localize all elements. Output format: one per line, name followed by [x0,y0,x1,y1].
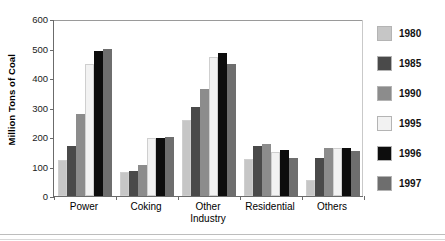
bar-1985 [253,146,262,196]
bar-1996 [156,138,165,196]
legend-item-1995[interactable]: 1995 [377,108,443,138]
bar-1980 [306,180,315,196]
bar-1997 [351,151,360,196]
legend-swatch-icon [377,26,392,41]
bar-1980 [58,160,67,196]
legend-swatch-icon [377,56,392,71]
x-axis-label: Coking [115,201,177,213]
x-axis-label: Power [53,201,115,213]
x-axis-label: OtherIndustry [177,201,239,224]
bar-1996 [94,51,103,196]
legend-label: 1997 [399,178,421,189]
legend-swatch-icon [377,176,392,191]
x-axis-label: Others [301,201,363,213]
bar-1990 [76,114,85,196]
legend-label: 1985 [399,58,421,69]
bar-1996 [342,148,351,196]
bar-1995 [147,138,156,196]
bar-1985 [67,146,76,196]
bar-1985 [315,158,324,196]
bar-1985 [129,171,138,196]
x-axis-label-line: Industry [177,213,239,225]
legend-swatch-icon [377,116,392,131]
x-axis-tick-mark [240,196,241,200]
x-axis-label: Residential [239,201,301,213]
legend-label: 1995 [399,118,421,129]
bar-group [302,20,364,196]
bar-1995 [333,148,342,196]
bar-1997 [289,158,298,196]
bar-group [178,20,240,196]
x-axis-label-line: Coking [115,201,177,213]
x-axis-tick-mark [178,196,179,200]
bar-1995 [271,152,280,196]
x-axis-tick-mark [302,196,303,200]
bar-group [240,20,302,196]
legend-item-1985[interactable]: 1985 [377,48,443,78]
bar-1996 [280,150,289,196]
legend-item-1996[interactable]: 1996 [377,138,443,168]
legend-item-1997[interactable]: 1997 [377,168,443,198]
footer-divider-top [0,234,445,235]
x-axis-tick-mark [364,196,365,200]
bar-1995 [85,64,94,196]
y-axis-tick-label: 300 [22,104,48,114]
bar-1997 [103,49,112,196]
y-axis-title-text: Million Tons of Coal [6,54,17,146]
legend-swatch-icon [377,146,392,161]
y-axis-tick-label: 200 [22,133,48,143]
chart-legend: 198019851990199519961997 [377,18,443,198]
bar-1980 [120,172,129,196]
x-axis-label-line: Others [301,201,363,213]
legend-item-1980[interactable]: 1980 [377,18,443,48]
legend-swatch-icon [377,86,392,101]
bar-1980 [182,120,191,196]
y-axis-tick-label: 500 [22,45,48,55]
bar-group [116,20,178,196]
bar-group [54,20,116,196]
plot-area [53,20,363,197]
bar-chart-figure: Million Tons of Coal 0100200300400500600… [0,0,445,241]
bar-1990 [138,165,147,196]
x-axis-label-line: Other [177,201,239,213]
bar-1995 [209,57,218,196]
bar-1980 [244,159,253,196]
bar-1996 [218,53,227,196]
y-axis-tick-labels: 0100200300400500600 [18,0,48,241]
bar-1990 [262,144,271,196]
y-axis-tick-label: 400 [22,74,48,84]
y-axis-tick-label: 100 [22,163,48,173]
bar-1990 [324,148,333,196]
bar-1985 [191,107,200,196]
legend-label: 1996 [399,148,421,159]
bar-1997 [165,137,174,196]
bar-1990 [200,89,209,196]
x-axis-label-line: Power [53,201,115,213]
x-axis-tick-mark [54,196,55,200]
x-axis-label-line: Residential [239,201,301,213]
bar-1997 [227,64,236,196]
legend-item-1990[interactable]: 1990 [377,78,443,108]
y-axis-tick-label: 0 [22,192,48,202]
x-axis-tick-mark [116,196,117,200]
y-axis-tick-label: 600 [22,15,48,25]
footer-divider-bottom [0,239,445,240]
legend-label: 1990 [399,88,421,99]
legend-label: 1980 [399,28,421,39]
